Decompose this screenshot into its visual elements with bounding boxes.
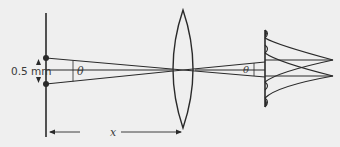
angle-label-left: θ <box>77 65 84 78</box>
diffraction-resolution-diagram: 0.5 mm θ θ x <box>0 0 340 147</box>
distance-label: x <box>110 126 117 139</box>
angle-label-right: θ <box>243 64 249 75</box>
separation-label: 0.5 mm <box>11 65 52 77</box>
diffraction-patterns <box>265 30 333 107</box>
